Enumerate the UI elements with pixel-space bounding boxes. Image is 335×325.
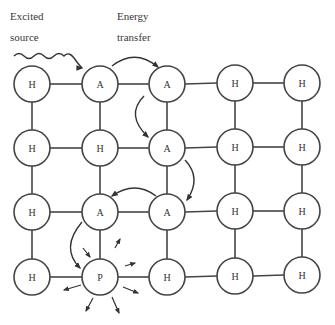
- node-label: A: [163, 79, 171, 90]
- node-label: H: [231, 78, 238, 89]
- node-label: H: [231, 142, 238, 153]
- node-label: H: [298, 78, 305, 89]
- node-label: A: [163, 143, 171, 154]
- node-label: H: [96, 143, 103, 154]
- node-label: H: [28, 272, 35, 283]
- excitation-wave-arrow: [14, 54, 82, 69]
- node-label: H: [298, 206, 305, 217]
- node-label: P: [97, 272, 103, 283]
- node-label: H: [231, 206, 238, 217]
- vertical-bonds: [32, 101, 302, 259]
- node-label: H: [28, 143, 35, 154]
- node-label: H: [298, 142, 305, 153]
- node-label: H: [231, 271, 238, 282]
- lattice-diagram: H A A H H H H A H H H A A H H H P H H H: [0, 0, 335, 325]
- node-label: H: [163, 272, 170, 283]
- node-label: H: [28, 79, 35, 90]
- node-label: H: [28, 207, 35, 218]
- node-label: H: [298, 270, 305, 281]
- node-label: A: [96, 207, 104, 218]
- node-label: A: [163, 207, 171, 218]
- node-label: A: [96, 79, 104, 90]
